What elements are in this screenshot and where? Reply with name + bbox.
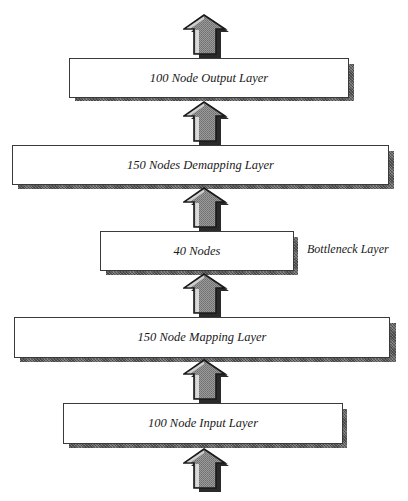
demapping-layer-box: 150 Nodes Demapping Layer	[12, 145, 389, 185]
up-arrow-icon	[183, 101, 231, 147]
bottleneck-layer-label: 40 Nodes	[174, 244, 221, 259]
output-layer-label: 100 Node Output Layer	[150, 71, 268, 86]
input-layer-label: 100 Node Input Layer	[148, 416, 258, 431]
up-arrow-icon	[183, 187, 231, 233]
up-arrow-icon	[183, 273, 231, 319]
up-arrow-icon	[183, 14, 231, 60]
output-layer-box: 100 Node Output Layer	[69, 58, 349, 98]
bottleneck-layer-box: 40 Nodes	[100, 231, 294, 271]
input-layer-box: 100 Node Input Layer	[63, 403, 343, 444]
up-arrow-icon	[183, 359, 231, 405]
demapping-layer-label: 150 Nodes Demapping Layer	[127, 158, 274, 173]
up-arrow-icon	[183, 448, 231, 494]
mapping-layer-label: 150 Node Mapping Layer	[138, 330, 267, 345]
bottleneck-side-label: Bottleneck Layer	[307, 242, 389, 257]
mapping-layer-box: 150 Node Mapping Layer	[14, 317, 390, 358]
